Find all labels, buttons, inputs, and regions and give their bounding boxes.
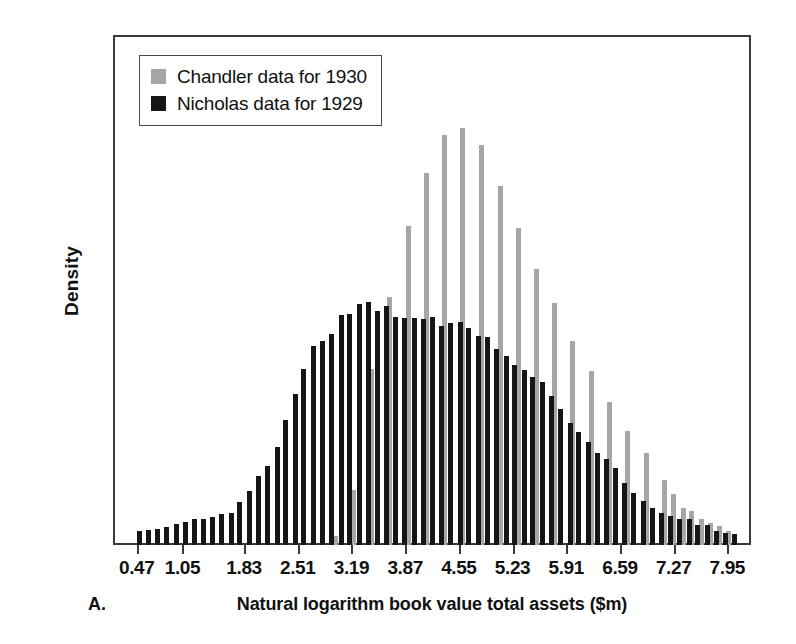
x-axis-tick-mark [566,545,568,554]
bar [219,514,224,545]
bar [265,466,270,545]
bar [476,336,481,545]
bar [705,525,710,545]
x-axis-tick-mark [351,545,353,554]
x-axis-tick-mark [459,545,461,554]
x-axis-tick-label: 7.27 [656,557,691,579]
bar [522,370,527,545]
bar [723,533,728,545]
x-axis-title: Natural logarithm book value total asset… [113,594,751,615]
bar [329,334,334,545]
bar [201,519,206,545]
bar [256,476,261,545]
bar [540,382,545,545]
chart-figure: Density 00.10.20.30.40.50.6 A. Natural l… [0,0,796,644]
x-axis-tick-label: 5.91 [549,557,584,579]
x-axis-tick-mark [727,545,729,554]
x-axis-tick-mark [405,545,407,554]
bar [439,326,444,545]
bar [183,522,188,545]
y-axis-title: Density [61,201,83,361]
bar [530,377,535,545]
x-axis-tick-label: 2.51 [280,557,315,579]
bar [466,328,471,545]
bar [448,323,453,545]
panel-letter: A. [88,594,106,615]
bar [695,525,700,545]
bar [650,508,655,545]
bar [622,483,627,545]
bar [311,346,316,545]
bar [421,319,426,545]
bar [595,453,600,545]
bar [320,341,325,545]
bar [384,306,389,545]
bar [641,501,646,545]
bar [155,529,160,545]
chart-legend: Chandler data for 1930 Nicholas data for… [139,55,382,126]
bar [558,409,563,545]
bar [301,369,306,545]
bar [210,517,215,545]
bar [604,459,609,545]
bar [393,317,398,545]
x-axis-tick-mark [674,545,676,554]
x-axis-tick-label: 3.19 [334,557,369,579]
x-axis-tick-mark [137,545,139,554]
bar [229,513,234,545]
bar [458,322,463,545]
bar [714,531,719,545]
bar [339,315,344,545]
bar [412,318,417,545]
bar [732,534,737,545]
bar [668,516,673,545]
legend-item-nicholas: Nicholas data for 1929 [151,90,367,117]
bar [357,304,362,545]
x-axis-tick-mark [513,545,515,554]
x-axis-tick-label: 6.59 [602,557,637,579]
bar [504,356,509,545]
bar [687,519,692,545]
x-axis-tick-label: 7.95 [710,557,745,579]
legend-swatch-chandler [151,69,166,84]
bar [576,432,581,545]
bar [275,447,280,545]
bar [347,314,352,545]
x-axis-tick-mark [244,545,246,554]
x-axis-tick-label: 5.23 [495,557,530,579]
bar [494,349,499,545]
bar [283,420,288,545]
bar [659,513,664,545]
x-axis-tick-mark [182,545,184,554]
x-axis-tick-mark [620,545,622,554]
bar [375,311,380,545]
bar [568,423,573,545]
bar [402,318,407,545]
bar [164,527,169,545]
bar [586,442,591,545]
bar [485,337,490,545]
bar [146,530,151,545]
bar [677,519,682,545]
legend-label-nicholas: Nicholas data for 1929 [177,93,363,115]
bar [430,317,435,545]
x-axis-tick-label: 3.87 [387,557,422,579]
bar [293,394,298,545]
y-axis: Density 00.10.20.30.40.50.6 [0,0,113,644]
bar [631,493,636,545]
bar [237,502,242,545]
x-axis-tick-mark [298,545,300,554]
bar [512,365,517,545]
bar [366,302,371,545]
x-axis-tick-label: 1.83 [226,557,261,579]
bar [192,519,197,545]
x-axis-tick-label: 1.05 [165,557,200,579]
bars-layer [0,0,796,644]
legend-item-chandler: Chandler data for 1930 [151,63,367,90]
legend-swatch-nicholas [151,96,166,111]
x-axis-tick-label: 4.55 [441,557,476,579]
legend-label-chandler: Chandler data for 1930 [177,66,367,88]
bar [174,524,179,545]
bar [549,396,554,545]
bar [247,491,252,545]
